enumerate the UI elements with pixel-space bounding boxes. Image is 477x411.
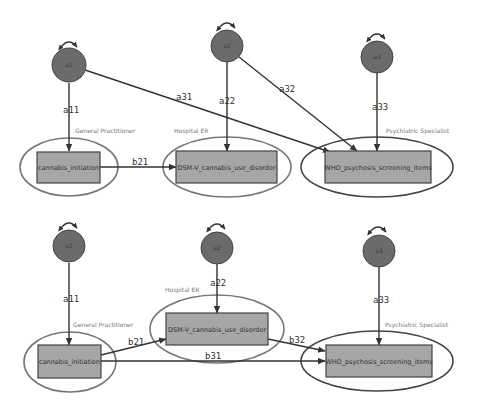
- path-diagram: a1 a2 a3 cannabis_initiation DSM-V_canna…: [0, 0, 477, 411]
- path-a31: [85, 70, 330, 152]
- path-label-b31: b31: [205, 351, 221, 361]
- path-label-a33: a33: [372, 102, 388, 112]
- observed-dsm-v-cannabis-use-disorder[interactable]: DSM-V_cannabis_use_disorder: [176, 151, 277, 183]
- variance-loop-icon: [209, 224, 225, 229]
- observed-label: DSM-V_cannabis_use_disorder: [168, 326, 266, 334]
- variance-loop-icon: [219, 23, 235, 28]
- latent-label: a2: [213, 244, 221, 251]
- observed-cannabis-initiation[interactable]: cannabis_initiation: [38, 345, 101, 378]
- group-label-psychiatric-specialist: Psychiatric Specialist: [385, 321, 449, 329]
- observed-dsm-v-cannabis-use-disorder[interactable]: DSM-V_cannabis_use_disorder: [166, 313, 268, 345]
- path-label-a11: a11: [63, 294, 79, 304]
- latent-label: a2: [223, 42, 231, 49]
- path-label-a11: a11: [63, 105, 79, 115]
- observed-label: cannabis_initiation: [38, 164, 99, 172]
- observed-label: cannabis_initiation: [39, 358, 100, 366]
- path-label-a22: a22: [219, 96, 235, 106]
- path-label-a33: a33: [373, 295, 389, 305]
- group-label-general-practitioner: General Practitioner: [75, 127, 136, 134]
- path-label-b21: b21: [128, 337, 144, 347]
- variance-loop-icon: [61, 223, 77, 228]
- observed-who-psychosis-screening-items[interactable]: WHO_psychosis_screening_items: [325, 345, 433, 377]
- group-label-general-practitioner: General Practitioner: [73, 321, 134, 328]
- group-label-hospital-er: Hospital ER: [165, 286, 199, 294]
- latent-a1[interactable]: a1: [53, 230, 85, 262]
- variance-loop-icon: [369, 34, 385, 39]
- observed-who-psychosis-screening-items[interactable]: WHO_psychosis_screening_items: [324, 151, 432, 183]
- observed-cannabis-initiation[interactable]: cannabis_initiation: [37, 152, 100, 183]
- path-label-a32: a32: [279, 84, 295, 94]
- latent-label: a1: [65, 242, 73, 249]
- latent-label: a1: [65, 61, 73, 68]
- bottom-model: a1 a2 a3 cannabis_initiation DSM-V_canna…: [24, 223, 453, 392]
- latent-a3[interactable]: a3: [361, 41, 393, 73]
- latent-a2[interactable]: a2: [211, 30, 243, 62]
- latent-a3[interactable]: a3: [363, 235, 395, 267]
- latent-label: a3: [373, 53, 381, 60]
- observed-label: WHO_psychosis_screening_items: [324, 164, 432, 172]
- group-label-psychiatric-specialist: Psychiatric Specialist: [386, 127, 450, 135]
- observed-label: DSM-V_cannabis_use_disorder: [177, 164, 275, 172]
- path-label-b32: b32: [289, 335, 305, 345]
- path-label-b21: b21: [132, 157, 148, 167]
- latent-label: a3: [375, 247, 383, 254]
- top-model: a1 a2 a3 cannabis_initiation DSM-V_canna…: [20, 23, 453, 197]
- latent-a1[interactable]: a1: [52, 48, 86, 82]
- path-label-a22: a22: [210, 278, 226, 288]
- path-label-a31: a31: [176, 92, 192, 102]
- observed-label: WHO_psychosis_screening_items: [325, 358, 433, 366]
- latent-a2[interactable]: a2: [201, 232, 233, 264]
- variance-loop-icon: [370, 227, 386, 232]
- path-a32: [239, 57, 357, 151]
- group-label-hospital-er: Hospital ER: [174, 127, 208, 135]
- variance-loop-icon: [61, 42, 77, 47]
